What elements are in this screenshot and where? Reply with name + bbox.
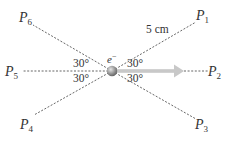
electron-label: e− — [107, 52, 117, 65]
point-label-p1: P1 — [195, 8, 209, 25]
electron-charge — [107, 66, 117, 76]
angle-label-lower-right: 30° — [127, 72, 144, 84]
line-to-p3 — [112, 71, 196, 119]
angle-label-upper-left: 30° — [73, 57, 90, 69]
point-label-p4: P4 — [19, 117, 34, 134]
point-label-p2: P2 — [207, 64, 221, 81]
point-label-p3: P3 — [194, 117, 209, 134]
point-label-p5: P5 — [4, 64, 19, 81]
point-label-p6: P6 — [18, 10, 33, 27]
angle-label-lower-left: 30° — [73, 72, 90, 84]
velocity-arrow-head — [174, 65, 184, 78]
velocity-arrow — [114, 65, 184, 78]
velocity-arrow-shaft — [114, 69, 176, 73]
angle-label-upper-right: 30° — [127, 57, 144, 69]
distance-label: 5 cm — [146, 23, 169, 35]
electron-field-points-diagram: e− 30° 30° 30° 30° 5 cm P1 P2 P3 P4 P5 P… — [0, 0, 225, 142]
